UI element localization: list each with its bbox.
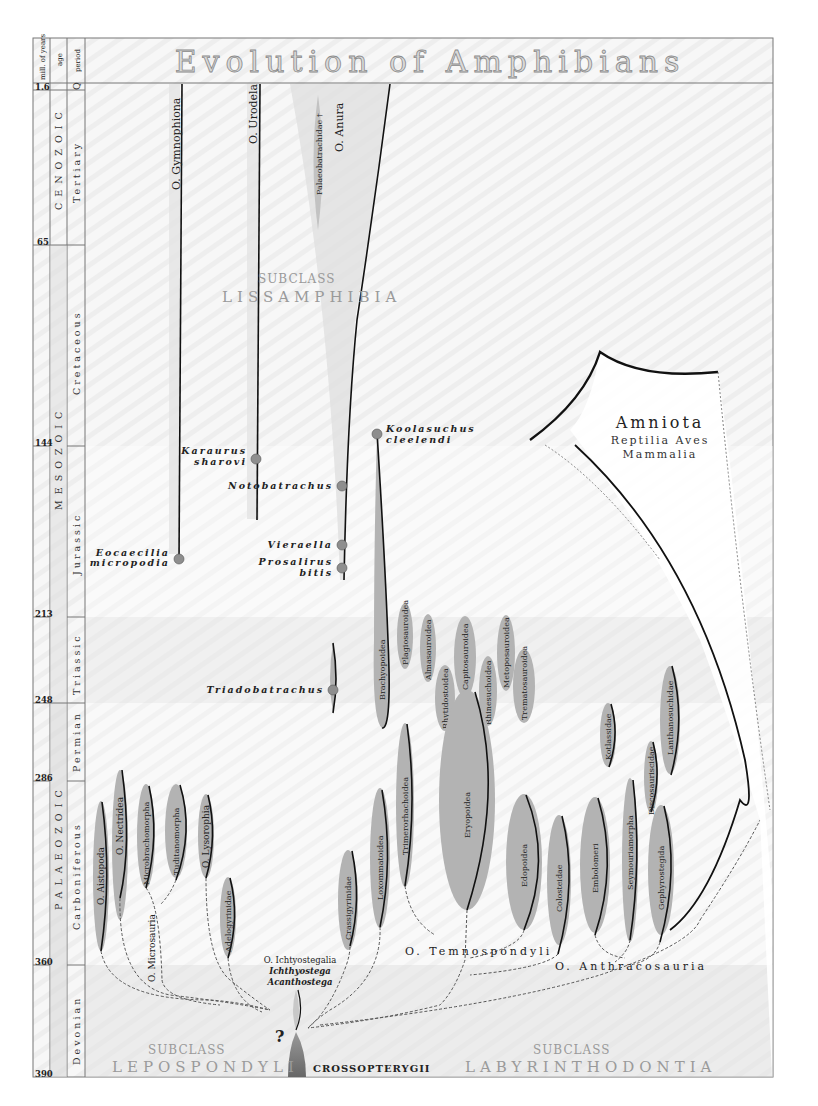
label-metoposauroidea: Metoposauroidea xyxy=(502,617,511,688)
eocaecilia-label-2: micropodia xyxy=(90,557,170,568)
header-period: period xyxy=(74,49,82,72)
period-carboniferous: Carboniferous xyxy=(71,822,82,930)
period-triassic: Triassic xyxy=(71,633,82,695)
lissamphibia-prefix: SUBCLASS xyxy=(258,272,335,286)
karaurus-label-2: sharovi xyxy=(194,456,247,467)
tick-213: 213 xyxy=(35,609,53,619)
label-nectridea: O. Nectridea xyxy=(115,796,125,855)
tick-360: 360 xyxy=(35,957,53,967)
koolasuchus-dot xyxy=(372,429,382,439)
label-adelogyrinidae: Adelogyrinidae xyxy=(224,890,233,953)
amniota-title: Amniota xyxy=(615,413,705,432)
label-almasauroidea: Almasauroidea xyxy=(424,619,433,681)
period-permian: Permian xyxy=(71,711,82,772)
lepospondyli-prefix: SUBCLASS xyxy=(148,1043,225,1057)
acanthostega-label: Acanthostega xyxy=(267,977,333,987)
age-palaeozoic: PALAEOZOIC xyxy=(53,784,64,910)
header-age: age xyxy=(56,53,64,66)
label-brachyopoidea: Brachyopoidea xyxy=(378,639,387,700)
uncertain-mark: ? xyxy=(275,1027,284,1046)
label-discosauriscidae: Discosauriscidae xyxy=(647,746,656,815)
label-microsauria: O. Microsauria xyxy=(147,914,157,982)
label-rhinesuchoidea: Rhinesuchoidea xyxy=(484,660,493,725)
period-tertiary: Tertiary xyxy=(71,141,82,203)
triadobatrachus-dot xyxy=(328,685,338,695)
label-edopoidea: Edopoidea xyxy=(520,844,529,887)
label-crassigyrinidae: Crassigyrinidae xyxy=(344,876,353,940)
diagram-title: Evolution of Amphibians xyxy=(175,44,686,79)
prosalirus-label-2: bitis xyxy=(299,567,333,578)
label-colosteidae: Colosteidae xyxy=(555,864,564,912)
header-years: mill. of years xyxy=(39,34,47,80)
label-palaeobatrachidae: Palaeobatrachidae † xyxy=(315,113,324,195)
period-quaternary: Q xyxy=(71,79,82,90)
vieraella-dot xyxy=(337,540,347,550)
karaurus-label-1: Karaurus xyxy=(180,445,247,456)
label-anthracosauria: O. Anthracosauria xyxy=(555,960,707,973)
ichthyostegalia-order: O. Ichtyostegalia xyxy=(264,955,337,965)
label-trematosauroidea: Trematosauroidea xyxy=(520,646,529,720)
eocaecilia-dot xyxy=(174,554,184,564)
koolasuchus-label-1: Koolasuchus xyxy=(385,423,476,434)
crossopterygii-label: CROSSOPTERYGII xyxy=(313,1063,431,1074)
tick-144: 144 xyxy=(35,438,53,448)
label-seymouriamorpha: Seymouriamorpha xyxy=(626,815,635,890)
lissamphibia-name: LISSAMPHIBIA xyxy=(222,288,401,306)
labyrinthodontia-prefix: SUBCLASS xyxy=(533,1043,610,1057)
karaurus-dot xyxy=(251,454,261,464)
label-lanthanosuchidae: Lanthanosuchidae xyxy=(666,680,675,755)
tick-248: 248 xyxy=(35,695,53,705)
label-anura: O. Anura xyxy=(333,102,346,152)
amniota-line-2: Mammalia xyxy=(623,448,698,461)
tick-286: 286 xyxy=(35,773,53,783)
koolasuchus-label-2: cleelendi xyxy=(386,434,452,445)
label-eryopoidea: Eryopoidea xyxy=(463,792,472,838)
age-mesozoic: MESOZOIC xyxy=(53,406,64,510)
vieraella-label: Vieraella xyxy=(268,539,333,550)
notobatrachus-label: Notobatrachus xyxy=(227,480,333,491)
tick-1-6: 1.6 xyxy=(35,82,50,92)
prosalirus-label-1: Prosalirus xyxy=(258,556,333,567)
labyrinthodontia-name: LABYRINTHODONTIA xyxy=(465,1058,716,1076)
tick-65: 65 xyxy=(37,237,49,247)
amniota-line-1: Reptilia Aves xyxy=(611,434,710,447)
ichthyostega-label: Ichthyostega xyxy=(268,966,331,976)
lepospondyli-name: LEPOSPONDYLI xyxy=(112,1058,299,1076)
triadobatrachus-label: Triadobatrachus xyxy=(207,684,324,695)
label-embolomeri: Embolomeri xyxy=(591,843,600,893)
label-gephyrostegida: Gephyrostegida xyxy=(657,846,666,910)
tick-390: 390 xyxy=(35,1069,53,1079)
label-loxommatoidea: Loxommatoidea xyxy=(376,835,385,900)
label-tuditanomorpha: Tuditanomorpha xyxy=(172,807,181,875)
period-jurassic: Jurassic xyxy=(71,513,82,576)
period-cretaceous: Cretaceous xyxy=(71,310,82,395)
label-microbrachomorpha: Microbrachomorpha xyxy=(142,801,151,885)
notobatrachus-dot xyxy=(337,481,347,491)
label-temnospondyli: O. Temnospondyli xyxy=(405,945,552,958)
label-aistopoda: O. Aistopoda xyxy=(96,846,106,905)
label-gymnophiona: O. Gymnophiona xyxy=(170,97,183,190)
evolution-diagram: Evolution of Amphibians mill. of years a… xyxy=(0,0,818,1106)
label-kotlassidae: Kotlassidae xyxy=(604,713,613,760)
label-plagiosauroidea: Plagiosauroidea xyxy=(401,600,410,665)
label-lysorophia: O. Lysorophia xyxy=(201,804,211,868)
prosalirus-dot xyxy=(337,563,347,573)
period-devonian: Devonian xyxy=(71,996,82,1065)
label-capitosauroidea: Capitosauroidea xyxy=(461,623,470,690)
age-cenozoic: CENOZOIC xyxy=(53,106,64,210)
label-urodela: O. Urodela xyxy=(247,83,260,144)
label-trimerorhachoidea: Trimerorhachoidea xyxy=(401,777,410,855)
